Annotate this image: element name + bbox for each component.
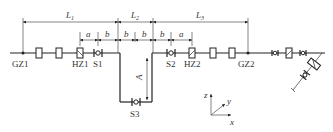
label-a-right: a (179, 29, 184, 39)
label-hz1: HZ1 (72, 59, 89, 69)
axes-indicator: z y x (203, 90, 234, 127)
label-b2: b (124, 29, 129, 39)
label-b1: b (105, 29, 110, 39)
label-l1: L1 (65, 10, 74, 21)
component-box (210, 48, 216, 58)
axis-label-y: y (226, 96, 231, 106)
right-valve-icon (300, 50, 306, 56)
diagonal-branch (291, 53, 322, 92)
component-box (56, 48, 62, 58)
right-check-valve-icon (286, 48, 292, 58)
label-gz2: GZ2 (238, 59, 255, 69)
right-valve-icon (272, 50, 278, 56)
label-vertical-dimension: A (134, 74, 144, 81)
label-l2: L2 (130, 10, 139, 21)
label-s1: S1 (93, 59, 103, 69)
label-a-left: a (86, 29, 91, 39)
hz2-valve-icon (189, 48, 195, 58)
hz1-valve-icon (77, 48, 83, 58)
label-hz2: HZ2 (184, 59, 201, 69)
label-s2: S2 (166, 59, 176, 69)
label-b3: b (142, 29, 147, 39)
axis-label-z: z (203, 90, 208, 100)
label-gz1: GZ1 (12, 59, 29, 69)
label-s3: S3 (130, 109, 140, 119)
component-box (36, 48, 42, 58)
piping-diagram: L1 L2 L3 a b b b b a A GZ1 HZ1 S1 S2 HZ2… (0, 0, 333, 132)
label-b4: b (160, 29, 165, 39)
label-l3: L3 (195, 10, 204, 21)
component-box (229, 48, 235, 58)
axis-label-x: x (229, 117, 234, 127)
